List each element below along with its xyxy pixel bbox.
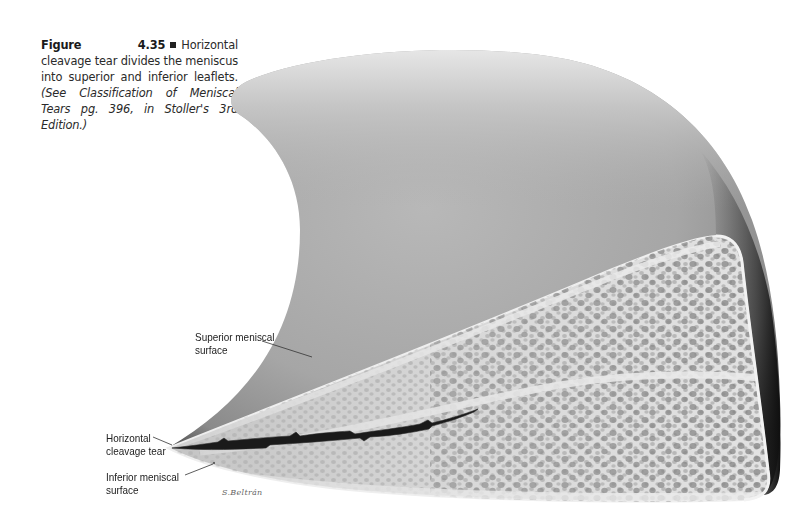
artist-signature: S.Beltrán: [222, 488, 263, 497]
label-line: Inferior meniscal: [106, 471, 179, 484]
label-line: surface: [195, 344, 275, 357]
leader-inferior: [185, 464, 213, 475]
label-inferior-meniscal-surface: Inferior meniscal surface: [106, 471, 179, 497]
label-line: surface: [106, 484, 179, 497]
label-horizontal-cleavage-tear: Horizontal cleavage tear: [106, 432, 166, 458]
label-line: cleavage tear: [106, 445, 166, 458]
label-superior-meniscal-surface: Superior meniscal surface: [195, 331, 275, 357]
label-line: Superior meniscal: [195, 331, 275, 344]
label-line: Horizontal: [106, 432, 166, 445]
